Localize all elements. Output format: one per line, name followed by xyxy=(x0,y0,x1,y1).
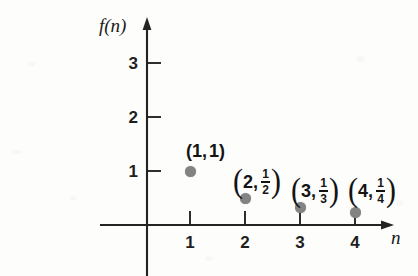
point-x-value: 3 xyxy=(301,182,311,200)
point-comma: , xyxy=(368,182,373,200)
paren-open: ( xyxy=(291,176,301,203)
paren-open: ( xyxy=(233,167,243,194)
x-tick-label-2: 2 xyxy=(234,234,256,251)
x-axis-label: n xyxy=(391,228,401,247)
point-label-1: ( 1 , 1 ) xyxy=(186,142,225,160)
y-tick-label-3: 3 xyxy=(116,55,138,72)
fraction-numerator: 1 xyxy=(376,177,385,189)
fraction-denominator: 3 xyxy=(319,193,328,205)
point-comma: , xyxy=(253,173,258,191)
point-x-value: 1 xyxy=(192,142,202,160)
point-label-3: ( 3 , 1 3 ) xyxy=(291,177,339,205)
point-x-value: 2 xyxy=(243,173,253,191)
fraction-denominator: 4 xyxy=(376,193,385,205)
point-y-fraction: 1 3 xyxy=(319,177,328,205)
x-tick-label-3: 3 xyxy=(289,234,311,251)
fraction-numerator: 1 xyxy=(261,168,270,180)
point-comma: , xyxy=(311,182,316,200)
y-tick-label-2: 2 xyxy=(116,109,138,126)
data-point xyxy=(185,166,196,177)
point-label-2: ( 2 , 1 2 ) xyxy=(233,168,281,196)
point-comma: , xyxy=(202,142,207,160)
paren-close: ) xyxy=(386,176,396,203)
point-y-fraction: 1 2 xyxy=(261,168,270,196)
fraction-denominator: 2 xyxy=(261,184,270,196)
paren-close: ) xyxy=(271,167,281,194)
x-tick-label-4: 4 xyxy=(344,234,366,251)
fraction-numerator: 1 xyxy=(319,177,328,189)
point-y-fraction: 1 4 xyxy=(376,177,385,205)
paren-open: ( xyxy=(348,176,358,203)
paren-close: ) xyxy=(219,142,225,160)
figure-canvas: f(n) n 3 2 1 1 2 3 4 ( 1 , 1 ) ( 2 , 1 2… xyxy=(0,0,418,276)
y-axis-arrowhead xyxy=(143,17,152,30)
y-axis-label: f(n) xyxy=(99,16,126,35)
x-tick-label-1: 1 xyxy=(179,234,201,251)
point-y-value: 1 xyxy=(209,142,219,160)
point-x-value: 4 xyxy=(358,182,368,200)
data-point xyxy=(350,207,361,218)
y-tick-label-1: 1 xyxy=(116,163,138,180)
point-label-4: ( 4 , 1 4 ) xyxy=(348,177,396,205)
paren-close: ) xyxy=(329,176,339,203)
